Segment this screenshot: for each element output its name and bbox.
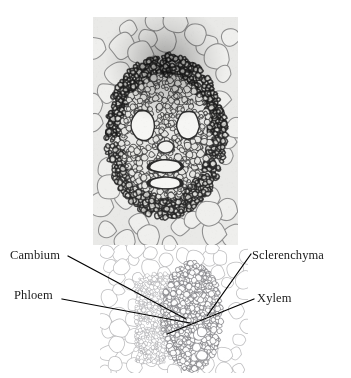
label-xylem: Xylem	[257, 292, 292, 305]
micrograph-vascular-bundle-closeup	[93, 17, 238, 245]
label-cambium: Cambium	[10, 249, 60, 262]
label-sclerenchyma: Sclerenchyma	[252, 249, 324, 262]
micrograph-widefield-canvas	[100, 245, 248, 373]
label-phloem: Phloem	[14, 289, 53, 302]
micrograph-vascular-bundle-widefield	[100, 245, 248, 373]
micrograph-closeup-canvas	[93, 17, 238, 245]
figure-root: Cambium Phloem Sclerenchyma Xylem	[0, 0, 351, 378]
